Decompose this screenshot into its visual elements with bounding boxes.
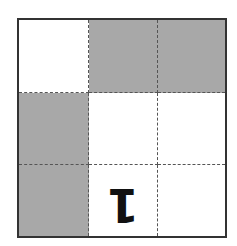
cell-r1-c2[interactable]: [89, 20, 158, 93]
cell-r2-c1[interactable]: [19, 93, 89, 165]
cell-r1-c1[interactable]: [19, 20, 89, 93]
cell-r3-c2[interactable]: 1: [89, 165, 158, 236]
cell-r3-c3[interactable]: [158, 165, 225, 236]
cell-r2-c2[interactable]: [89, 93, 158, 165]
cell-r2-c3[interactable]: [158, 93, 225, 165]
rotated-number-glyph: 1: [107, 182, 139, 228]
puzzle-grid: 1: [17, 18, 227, 238]
cell-r3-c1[interactable]: [19, 165, 89, 236]
cell-r1-c3[interactable]: [158, 20, 225, 93]
